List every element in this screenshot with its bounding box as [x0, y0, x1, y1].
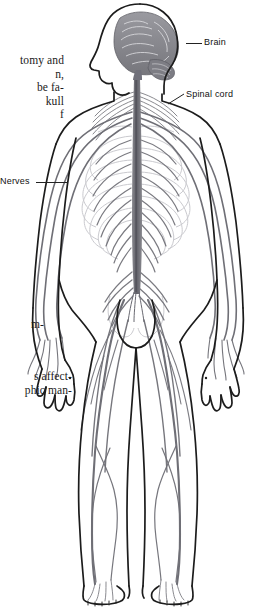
body-text-line: f [0, 108, 64, 122]
spinal-cord-leader-line [168, 94, 184, 104]
body-text-line: be fa- [0, 81, 64, 95]
callout-label-spinal-cord: Spinal cord [186, 89, 233, 99]
body-text-line: phic man- [0, 384, 72, 398]
brain-leader-line [186, 43, 202, 44]
body-text-upper: tomy and n, be fa- kull f [0, 54, 64, 122]
body-text-line: m- [0, 318, 44, 332]
body-text-line: kull [0, 95, 64, 109]
body-text-line: tomy and [0, 54, 64, 68]
callout-label-nerves: Nerves [0, 176, 30, 186]
body-text-line: s affect- [0, 370, 72, 384]
nerves-leader-line [36, 182, 68, 183]
body-text-line: n, [0, 68, 64, 82]
scanned-book-page: Brain Spinal cord Nerves tomy and n, be … [0, 0, 273, 610]
callout-label-brain: Brain [204, 37, 226, 47]
body-text-lower: s affect- phic man- [0, 370, 72, 397]
body-text-middle: m- [0, 318, 44, 332]
